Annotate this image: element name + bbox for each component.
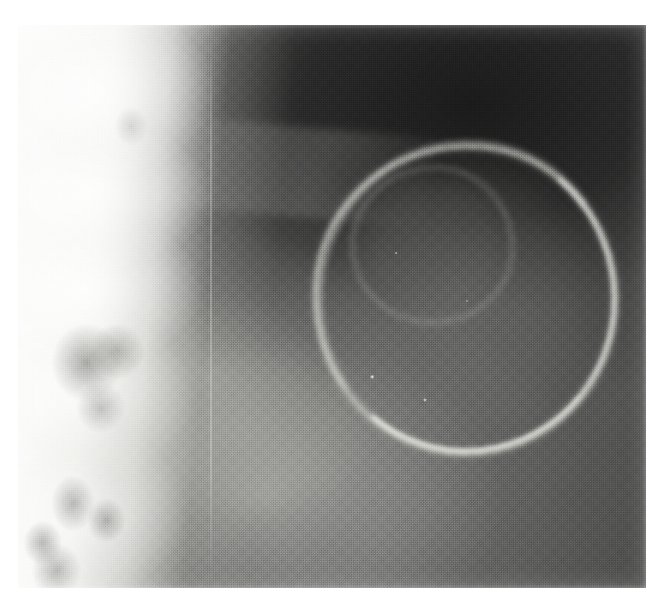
- radiograph-image: [18, 25, 646, 588]
- screenshot-canvas: [0, 0, 665, 595]
- film-edge-vignette: [18, 25, 646, 588]
